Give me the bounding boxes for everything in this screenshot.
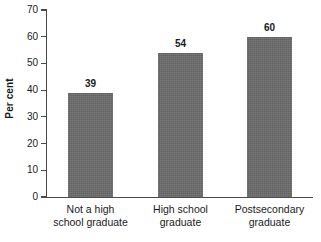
y-axis-tick-label: 50 — [0, 58, 38, 68]
bar-chart: Per cent 706050403020100 395460 Not a hi… — [0, 0, 321, 242]
y-axis-tick — [41, 9, 47, 10]
y-axis-tick — [41, 196, 47, 197]
x-axis-label: Postsecondarygraduate — [214, 203, 321, 228]
bar — [247, 37, 292, 197]
y-axis-tick — [41, 170, 47, 171]
x-axis-label-line: graduate — [214, 216, 321, 229]
y-axis-tick-label: 0 — [0, 192, 38, 202]
y-axis-tick-label: 40 — [0, 85, 38, 95]
bar-value-label: 60 — [240, 23, 300, 33]
y-axis-tick-label: 70 — [0, 5, 38, 15]
y-axis-tick — [41, 116, 47, 117]
y-axis-tick — [41, 143, 47, 144]
bar — [68, 93, 113, 197]
y-axis-tick — [41, 36, 47, 37]
bar — [158, 53, 203, 197]
y-axis-tick-label: 60 — [0, 32, 38, 42]
y-axis-tick-label: 30 — [0, 112, 38, 122]
y-axis-tick — [41, 63, 47, 64]
y-axis-tick-label: 20 — [0, 139, 38, 149]
y-axis-tick — [41, 90, 47, 91]
bar-value-label: 39 — [61, 79, 121, 89]
y-axis-tick-label: 10 — [0, 165, 38, 175]
x-axis-label-line: Postsecondary — [214, 203, 321, 216]
bar-value-label: 54 — [151, 39, 211, 49]
